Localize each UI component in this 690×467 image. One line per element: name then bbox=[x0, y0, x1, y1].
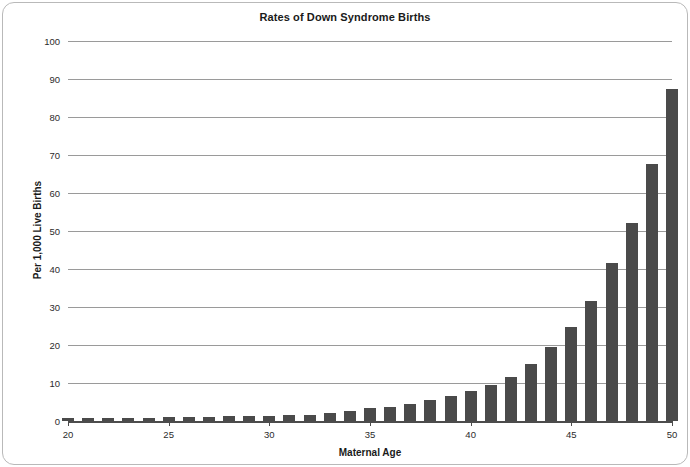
bar bbox=[465, 391, 477, 421]
bar bbox=[404, 404, 416, 421]
y-axis-tick-label: 30 bbox=[30, 302, 60, 313]
bar bbox=[646, 164, 658, 421]
chart-figure: Rates of Down Syndrome Births Per 1,000 … bbox=[0, 0, 690, 467]
x-axis-tick-label: 20 bbox=[48, 429, 88, 440]
bar bbox=[364, 408, 376, 421]
x-axis-tick-mark bbox=[571, 422, 572, 426]
y-axis-tick-label: 0 bbox=[30, 416, 60, 427]
x-axis-tick-label: 50 bbox=[652, 429, 690, 440]
x-axis-tick-mark bbox=[672, 422, 673, 426]
bar bbox=[505, 377, 517, 421]
y-axis-tick-label: 20 bbox=[30, 340, 60, 351]
bar bbox=[324, 413, 336, 421]
x-axis-tick-label: 45 bbox=[551, 429, 591, 440]
bar bbox=[545, 347, 557, 421]
bar bbox=[485, 385, 497, 421]
bar bbox=[424, 400, 436, 421]
x-axis-tick-label: 40 bbox=[451, 429, 491, 440]
x-axis-tick-label: 30 bbox=[249, 429, 289, 440]
bar bbox=[344, 411, 356, 421]
bar bbox=[666, 89, 678, 421]
bar bbox=[565, 327, 577, 421]
y-axis-tick-label: 50 bbox=[30, 226, 60, 237]
y-axis-tick-label: 60 bbox=[30, 188, 60, 199]
x-axis-tick-mark bbox=[370, 422, 371, 426]
x-axis-tick-label: 25 bbox=[149, 429, 189, 440]
x-axis-tick-mark bbox=[68, 422, 69, 426]
y-axis-tick-label: 40 bbox=[30, 264, 60, 275]
x-axis-tick-label: 35 bbox=[350, 429, 390, 440]
x-axis-tick-mark bbox=[169, 422, 170, 426]
y-axis-title-wrapper: Per 1,000 Live Births bbox=[14, 160, 30, 300]
bar bbox=[384, 407, 396, 421]
x-axis-tick-mark bbox=[471, 422, 472, 426]
y-axis-tick-label: 10 bbox=[30, 378, 60, 389]
y-axis-tick-label: 90 bbox=[30, 74, 60, 85]
bar bbox=[626, 223, 638, 421]
bar bbox=[525, 364, 537, 421]
x-axis-tick-mark bbox=[269, 422, 270, 426]
y-axis-tick-label: 70 bbox=[30, 150, 60, 161]
x-axis-title: Maternal Age bbox=[68, 447, 672, 458]
bar bbox=[445, 396, 457, 421]
bar-series bbox=[68, 41, 672, 421]
y-axis-tick-labels: 0102030405060708090100 bbox=[30, 41, 60, 422]
bar bbox=[585, 301, 597, 421]
bar bbox=[606, 263, 618, 421]
plot-area: 20253035404550 bbox=[68, 41, 672, 422]
chart-title: Rates of Down Syndrome Births bbox=[0, 11, 690, 23]
y-axis-tick-label: 100 bbox=[30, 36, 60, 47]
y-axis-tick-label: 80 bbox=[30, 112, 60, 123]
